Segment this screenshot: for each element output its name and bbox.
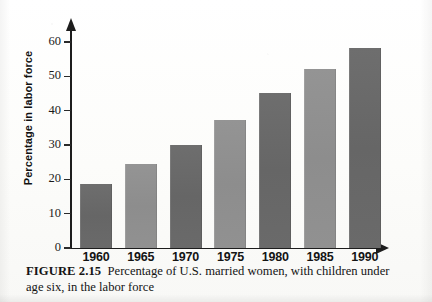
- bar: [349, 48, 381, 248]
- bar: [80, 184, 112, 248]
- bars-group: [0, 0, 432, 248]
- figure-page: Percentage in labor force 0102030405060 …: [0, 0, 432, 302]
- bar: [125, 164, 157, 248]
- x-axis-tick-label: 1990: [339, 250, 391, 264]
- figure-caption: FIGURE 2.15 Percentage of U.S. married w…: [26, 264, 406, 295]
- bar: [170, 145, 202, 248]
- bar-chart: Percentage in labor force 0102030405060 …: [0, 0, 432, 266]
- bar: [214, 120, 246, 248]
- bar: [259, 93, 291, 248]
- bar: [304, 69, 336, 248]
- figure-number: FIGURE 2.15: [26, 264, 101, 278]
